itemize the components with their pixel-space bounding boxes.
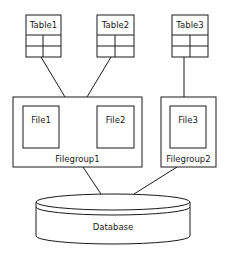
file2-box xyxy=(97,106,134,148)
connector-filegroup1-database xyxy=(83,167,101,194)
connector-table1-filegroup1 xyxy=(41,57,65,97)
table3-label: Table3 xyxy=(175,20,203,30)
connector-table2-filegroup1 xyxy=(87,57,111,97)
file3-label: File3 xyxy=(178,115,198,125)
database-label: Database xyxy=(93,222,134,232)
table2-label: Table2 xyxy=(101,20,129,30)
table1-label: Table1 xyxy=(29,20,57,30)
storage-diagram: Table1 Table2 Table3 File1 File2 Filegro… xyxy=(0,0,226,254)
file1-label: File1 xyxy=(31,115,51,125)
file2-label: File2 xyxy=(106,115,126,125)
connector-filegroup2-database xyxy=(134,167,177,194)
file3-box xyxy=(170,106,206,148)
database-cylinder xyxy=(36,194,190,244)
filegroup1-label: Filegroup1 xyxy=(55,154,99,164)
filegroup2-label: Filegroup2 xyxy=(166,154,210,164)
file1-box xyxy=(23,106,59,148)
